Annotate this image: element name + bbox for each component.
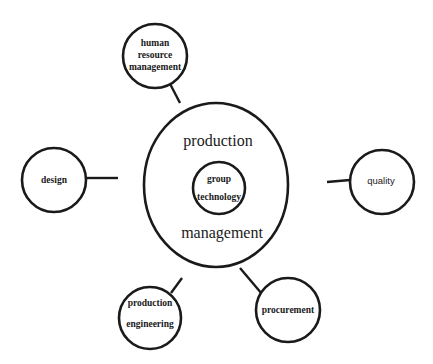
inner-circle	[193, 162, 245, 214]
inner-label-line1: group	[207, 174, 231, 184]
inner-node-group-technology: group technology	[193, 162, 245, 214]
node-label-line1: human	[141, 38, 170, 48]
node-label-line3: management	[129, 62, 182, 72]
node-design: design	[22, 148, 86, 212]
node-human-resource-management: human resource management	[123, 24, 187, 88]
node-label-line1: production	[128, 298, 173, 308]
central-label-top: production	[183, 132, 252, 150]
node-circle	[119, 287, 181, 349]
node-production-engineering: production engineering	[119, 287, 181, 349]
central-label-bottom: management	[181, 224, 263, 242]
node-procurement: procurement	[256, 278, 320, 342]
node-quality: quality	[350, 150, 414, 214]
connector-production-engineering	[171, 278, 182, 293]
node-label-line2: resource	[138, 50, 172, 60]
node-label-line2: engineering	[126, 319, 174, 329]
node-label: quality	[367, 175, 395, 186]
connector-quality	[327, 180, 350, 182]
connector-procurement	[240, 268, 262, 294]
node-label: design	[41, 175, 68, 185]
node-label: procurement	[262, 305, 315, 315]
production-management-diagram: production management group technology h…	[0, 0, 433, 364]
inner-label-line2: technology	[197, 192, 241, 202]
